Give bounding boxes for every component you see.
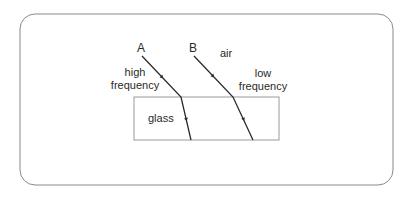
air-label: air	[220, 47, 232, 60]
ray-b-desc-line1: low	[236, 67, 290, 80]
glass-label: glass	[148, 112, 174, 125]
ray-a-desc-line1: high	[108, 66, 162, 79]
ray-a-description: high frequency	[108, 66, 162, 92]
ray-b-description: low frequency	[236, 67, 290, 93]
diagram-canvas	[0, 0, 413, 197]
outer-frame	[20, 14, 393, 185]
ray-b-desc-line2: frequency	[236, 80, 290, 93]
ray-b-label: B	[189, 42, 197, 55]
ray-a-label: A	[137, 42, 145, 55]
ray-a-desc-line2: frequency	[108, 79, 162, 92]
